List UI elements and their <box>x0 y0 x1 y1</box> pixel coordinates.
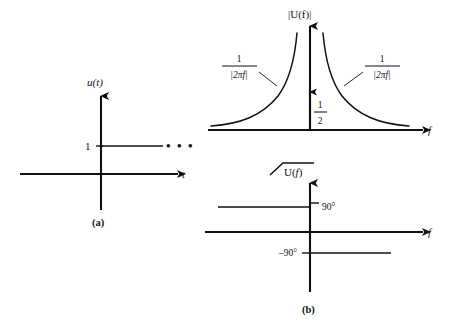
phase-axis-title-group: ∠U(f) U(f) <box>270 163 314 179</box>
panel-a-axis-title: u(t) <box>87 76 103 89</box>
panel-b-caption: (b) <box>302 304 315 316</box>
impulse-numerator: 1 <box>318 100 323 110</box>
figure-canvas: u(t) t 1 • • • (a) f |U(f)| 1 <box>0 0 450 334</box>
magnitude-right-denominator: |2πf| <box>373 70 390 80</box>
panel-a-caption: (a) <box>92 217 105 229</box>
magnitude-x-axis-label: f <box>428 124 433 136</box>
magnitude-axis-title: |U(f)| <box>288 8 311 21</box>
amplitude-tick-label: 1 <box>85 140 91 152</box>
magnitude-left-curve-label: 1 |2πf| <box>222 54 277 86</box>
impulse-denominator: 2 <box>318 116 323 126</box>
impulse-weight-label: 1 2 <box>314 100 327 126</box>
magnitude-left-leader-line <box>259 72 277 86</box>
magnitude-right-curve-label: 1 |2πf| <box>344 54 400 86</box>
magnitude-right-leader-line <box>344 72 363 86</box>
magnitude-curve-right <box>323 33 409 126</box>
magnitude-left-numerator: 1 <box>237 54 242 64</box>
phase-x-axis-label: f <box>428 226 433 238</box>
panel-a: u(t) t 1 • • • (a) <box>20 76 194 229</box>
panel-b-phase: f ∠U(f) U(f) 90° –90° (b) <box>205 163 433 316</box>
phase-axis-title-text: U(f) <box>284 166 303 179</box>
magnitude-curve-left <box>211 33 297 126</box>
figure-root: u(t) t 1 • • • (a) f |U(f)| 1 <box>0 0 450 334</box>
panel-b-magnitude: f |U(f)| 1 |2πf| 1 |2πf| 1 2 <box>208 8 433 136</box>
magnitude-left-denominator: |2πf| <box>230 70 247 80</box>
phase-positive-level-label: 90° <box>322 202 336 212</box>
panel-a-x-axis-label: t <box>182 168 186 180</box>
phase-negative-level-label: –90° <box>278 248 297 258</box>
magnitude-right-numerator: 1 <box>380 54 385 64</box>
continuation-dots: • • • <box>166 138 194 153</box>
